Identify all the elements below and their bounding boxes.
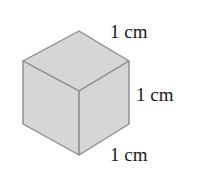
label-right-edge: 1 cm bbox=[136, 84, 174, 105]
label-bottom-edge: 1 cm bbox=[110, 144, 148, 165]
label-top-edge: 1 cm bbox=[110, 21, 148, 42]
cube-diagram: 1 cm 1 cm 1 cm bbox=[0, 0, 203, 172]
